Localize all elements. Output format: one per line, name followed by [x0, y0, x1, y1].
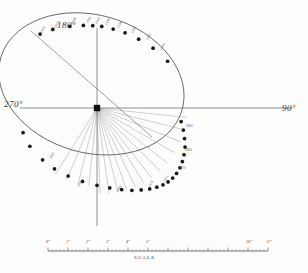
- observation-point: [82, 24, 86, 28]
- radius-vector: [97, 108, 135, 187]
- axis-label-90: 90°: [282, 103, 296, 113]
- observation-point: [123, 31, 127, 35]
- radius-vector: [97, 108, 175, 153]
- observation-point: [155, 185, 159, 189]
- observation-point: [111, 27, 115, 31]
- scale-tick-label: 5″: [146, 239, 150, 244]
- observation-point: [53, 167, 57, 171]
- observation-point: [100, 25, 104, 29]
- observation-point: [182, 153, 186, 157]
- observation-point: [91, 24, 95, 28]
- observation-point: [161, 183, 165, 187]
- observation-point: [51, 28, 55, 32]
- scale-tick-label: 4″: [126, 239, 130, 244]
- observation-point: [137, 37, 141, 41]
- observation-point: [21, 131, 25, 135]
- observation-point: [41, 158, 45, 162]
- primary-star-marker: [94, 105, 100, 111]
- scale-tick-label: 10″: [246, 239, 252, 244]
- observation-point: [183, 137, 187, 141]
- axis-label-270: 270°: [4, 99, 23, 109]
- scale-tick-label: 3″: [106, 239, 110, 244]
- radius-vector: [97, 108, 118, 192]
- year-label-right: 1870: [178, 166, 186, 170]
- observation-point: [175, 172, 179, 176]
- observation-point: [179, 120, 183, 124]
- observation-point: [108, 186, 112, 190]
- scale-tick-label: 2″: [86, 239, 90, 244]
- radius-vector: [56, 108, 97, 174]
- primary-star-marker-group: [94, 105, 100, 111]
- year-label-right: 1866: [185, 148, 193, 152]
- year-label-right: 1862: [185, 124, 193, 128]
- radius-vector: [97, 108, 180, 142]
- observation-point: [171, 176, 175, 180]
- orbit-plot-svg: [0, 0, 308, 273]
- radius-vector: [97, 108, 100, 194]
- scale-tick-label: 11″: [266, 239, 272, 244]
- observation-point: [139, 188, 143, 192]
- observation-point: [66, 174, 70, 178]
- scale-bar-caption: SCALE: [134, 255, 155, 260]
- observation-point: [151, 46, 155, 50]
- observation-point: [130, 188, 134, 192]
- observation-point: [180, 160, 184, 164]
- radius-vector: [97, 108, 167, 163]
- radius-vector: [97, 108, 127, 190]
- radius-vector: [97, 108, 184, 130]
- observation-point: [28, 144, 32, 148]
- radius-vector: [97, 108, 144, 183]
- radius-vector: [89, 108, 97, 186]
- scale-bar-group: [48, 248, 268, 251]
- cardinal-axes-group: [20, 28, 292, 226]
- apparent-orbit-figure: 180° 270° 90° SCALE 19041900189618921890…: [0, 0, 308, 273]
- observation-point: [182, 128, 186, 132]
- radius-vector: [97, 108, 187, 117]
- observation-point: [95, 184, 99, 188]
- scale-tick-label: 0″: [46, 239, 50, 244]
- observation-point: [166, 59, 170, 63]
- radius-vector: [97, 108, 160, 171]
- scale-tick-label: 1″: [66, 239, 70, 244]
